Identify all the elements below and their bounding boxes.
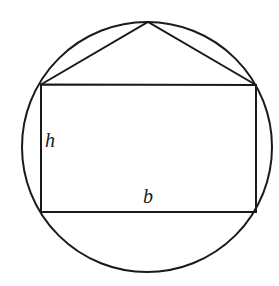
circumscribed-circle bbox=[22, 22, 272, 272]
apex-triangle bbox=[41, 22, 256, 85]
base-label-b: b bbox=[143, 186, 153, 206]
height-label-h: h bbox=[45, 130, 55, 150]
geometry-figure: h b bbox=[0, 0, 279, 286]
geometry-canvas bbox=[0, 0, 279, 286]
